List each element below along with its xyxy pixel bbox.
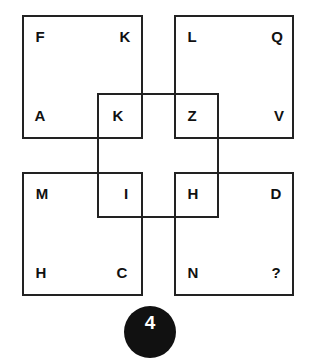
puzzle-number-badge: 4 [124, 306, 176, 358]
letter-br-bl: N [183, 265, 203, 281]
letter-tl-bl: A [30, 108, 50, 124]
letter-br-br: ? [266, 265, 286, 281]
letter-tl-tr: K [115, 29, 135, 45]
letter-bl-br: C [112, 265, 132, 281]
letter-tr-tl: L [182, 29, 202, 45]
letter-tl-br: K [108, 108, 128, 124]
letter-br-tl: H [183, 186, 203, 202]
puzzle-number: 4 [124, 312, 176, 334]
letter-tr-br: V [269, 108, 289, 124]
letter-bl-tr: I [116, 186, 136, 202]
letter-tr-tr: Q [267, 29, 287, 45]
letter-tl-tl: F [30, 29, 50, 45]
letter-tr-bl: Z [182, 108, 202, 124]
letter-br-tr: D [266, 186, 286, 202]
letter-bl-bl: H [31, 265, 51, 281]
letter-bl-tl: M [32, 186, 52, 202]
